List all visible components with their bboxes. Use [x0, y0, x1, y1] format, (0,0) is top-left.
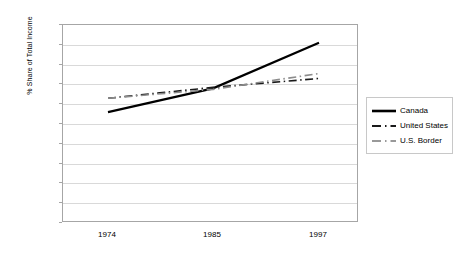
x-axis-tick-label: 1974	[82, 231, 132, 239]
x-axis-tick-label: 1985	[187, 231, 237, 239]
y-axis-tick-labels: 012345678910	[0, 0, 62, 264]
legend-label-canada: Canada	[400, 106, 428, 115]
y-axis-tickmark	[59, 44, 62, 45]
y-axis-tickmark	[59, 64, 62, 65]
legend-item-united-states: United States	[371, 118, 448, 133]
y-axis-tickmark	[59, 163, 62, 164]
legend: Canada United States U.S. Border	[366, 97, 453, 154]
y-axis-tickmark	[59, 24, 62, 25]
data-series-layer	[63, 25, 359, 223]
legend-item-us-border: U.S. Border	[371, 133, 448, 148]
legend-line-icon-us-border	[371, 136, 397, 146]
series-line-canada	[108, 43, 319, 112]
y-axis-tickmark	[59, 143, 62, 144]
series-line-u-s-border	[108, 74, 319, 99]
y-axis-tickmark	[59, 202, 62, 203]
y-axis-tickmark	[59, 123, 62, 124]
y-axis-tickmark	[59, 83, 62, 84]
legend-item-canada: Canada	[371, 103, 448, 118]
y-axis-tickmark	[59, 222, 62, 223]
legend-line-icon-canada	[371, 106, 397, 116]
line-chart: % Share of Total Income 012345678910 197…	[0, 0, 465, 264]
y-axis-tickmark	[59, 182, 62, 183]
x-axis-tick-label: 1997	[293, 231, 343, 239]
legend-label-us-border: U.S. Border	[400, 136, 442, 145]
y-axis-tickmark	[59, 103, 62, 104]
legend-line-icon-united-states	[371, 121, 397, 131]
legend-label-united-states: United States	[400, 121, 448, 130]
plot-area	[62, 24, 358, 222]
